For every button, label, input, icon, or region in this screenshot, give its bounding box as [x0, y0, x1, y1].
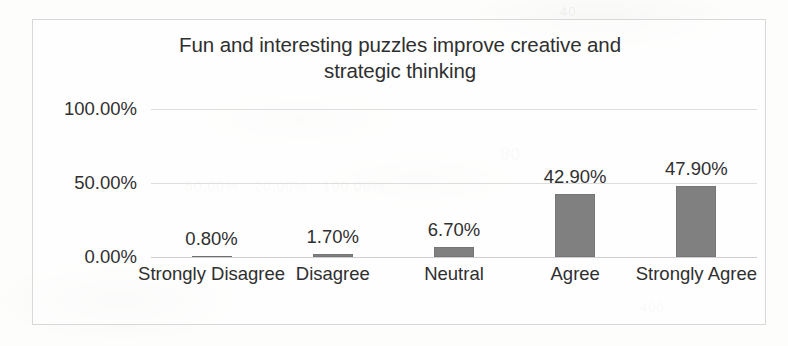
bar[interactable]	[192, 256, 232, 257]
bar[interactable]	[676, 186, 716, 257]
chart-title-line-1: Fun and interesting puzzles improve crea…	[179, 33, 621, 56]
chart-container: Fun and interesting puzzles improve crea…	[32, 19, 766, 325]
bar-group: 42.90%	[515, 109, 636, 257]
bar-value-label: 47.90%	[665, 158, 728, 180]
x-axis-label: Neutral	[424, 263, 484, 285]
bar-group: 6.70%	[393, 109, 514, 257]
x-axis-labels: Strongly DisagreeDisagreeNeutralAgreeStr…	[151, 263, 757, 293]
bar[interactable]	[313, 254, 353, 257]
bar-group: 0.80%	[151, 109, 272, 257]
ghost-artifact-top: 40	[560, 4, 576, 19]
chart-title: Fun and interesting puzzles improve crea…	[103, 32, 697, 84]
bar-value-label: 6.70%	[428, 219, 480, 241]
x-axis-label: Disagree	[296, 263, 370, 285]
bar[interactable]	[555, 194, 595, 257]
x-axis-label: Strongly Agree	[636, 263, 757, 285]
bar-group: 47.90%	[636, 109, 757, 257]
bar-series: 0.80%1.70%6.70%42.90%47.90%	[151, 109, 757, 257]
bar-group: 1.70%	[272, 109, 393, 257]
y-axis-tick-0: 0.00%	[85, 246, 137, 268]
y-axis-tick-100: 100.00%	[64, 98, 137, 120]
bar[interactable]	[434, 247, 474, 257]
axis-baseline	[151, 257, 757, 258]
bar-value-label: 42.90%	[544, 166, 607, 188]
bar-value-label: 1.70%	[307, 226, 359, 248]
plot-area: 100.00% 50.00% 0.00% 0.80%1.70%6.70%42.9…	[151, 109, 757, 257]
chart-title-line-2: strategic thinking	[324, 59, 476, 82]
y-axis-tick-50: 50.00%	[74, 172, 137, 194]
bar-value-label: 0.80%	[185, 228, 237, 250]
x-axis-label: Agree	[551, 263, 600, 285]
x-axis-label: Strongly Disagree	[138, 263, 285, 285]
